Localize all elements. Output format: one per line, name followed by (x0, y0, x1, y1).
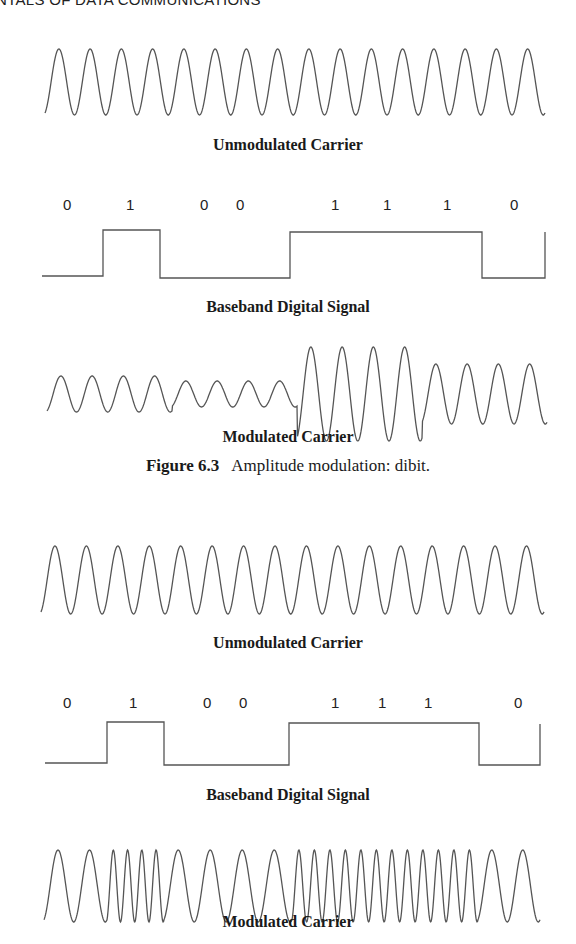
figure-number: Figure 6.3 (146, 456, 219, 475)
bit-label: 1 (443, 196, 451, 213)
bit-label: 1 (129, 694, 137, 711)
bit-label: 0 (63, 196, 71, 213)
fsk-modulated-carrier-wave (44, 850, 540, 922)
bit-label: 0 (203, 694, 211, 711)
unmodulated-carrier-wave-1 (45, 49, 545, 115)
fig63-unmodulated-label: Unmodulated Carrier (0, 136, 576, 154)
bit-label: 1 (378, 694, 386, 711)
am-modulated-carrier-wave (47, 347, 547, 441)
figure-caption-text: Amplitude modulation: dibit. (231, 456, 430, 475)
bit-label: 0 (510, 196, 518, 213)
fig63-baseband-label: Baseband Digital Signal (0, 298, 576, 316)
bit-label: 1 (424, 694, 432, 711)
bit-label: 0 (236, 196, 244, 213)
fig63-modulated-label: Modulated Carrier (0, 428, 576, 446)
bit-label: 1 (331, 196, 339, 213)
unmodulated-carrier-wave-2 (41, 546, 544, 614)
bit-label: 1 (126, 196, 134, 213)
fig64-unmodulated-label: Unmodulated Carrier (0, 634, 576, 652)
baseband-signal-1 (42, 230, 545, 278)
fig64-modulated-label: Modulated Carrier (0, 913, 576, 931)
bit-label: 0 (514, 694, 522, 711)
bit-label: 0 (239, 694, 247, 711)
bit-label: 1 (331, 694, 339, 711)
bit-label: 1 (383, 196, 391, 213)
baseband-signal-2 (45, 722, 540, 765)
bit-label: 0 (63, 694, 71, 711)
fig64-baseband-label: Baseband Digital Signal (0, 786, 576, 804)
figure-caption: Figure 6.3Amplitude modulation: dibit. (0, 456, 576, 476)
bit-label: 0 (200, 196, 208, 213)
